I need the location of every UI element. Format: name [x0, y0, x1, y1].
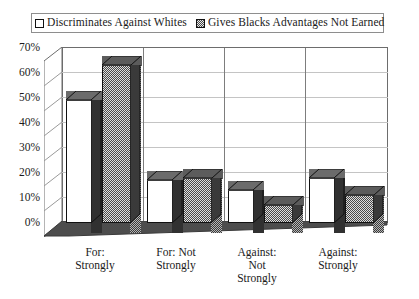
legend-label-discriminates: Discriminates Against Whites: [47, 17, 187, 29]
bar-face: [102, 65, 131, 223]
x-label-against-not-strongly: Against: Not Strongly: [212, 246, 302, 285]
bar-side: [91, 100, 102, 233]
chart-legend: Discriminates Against Whites Gives Black…: [31, 13, 384, 33]
bar-face: [66, 100, 92, 223]
y-tick-40: 40%: [19, 117, 40, 129]
legend-entry-advantages: Gives Blacks Advantages Not Earned: [196, 17, 385, 29]
bar-advantages-for-strongly: [102, 65, 131, 223]
legend-label-advantages: Gives Blacks Advantages Not Earned: [208, 17, 385, 29]
x-label-for-not-strongly: For: Not Strongly: [131, 246, 221, 272]
bar-advantages-against-strongly: [345, 195, 374, 223]
bar-face: [147, 180, 173, 223]
y-tick-10: 10%: [19, 192, 40, 204]
y-tick-20: 20%: [19, 167, 40, 179]
bar-face: [264, 205, 293, 223]
bar-discriminates-against-strongly: [309, 178, 335, 223]
y-tick-50: 50%: [19, 92, 40, 104]
bar-advantages-against-not-strongly: [264, 205, 293, 223]
bar-face: [345, 195, 374, 223]
bar-series-group: [44, 47, 388, 237]
hatched-square-icon: [196, 19, 205, 28]
bar-discriminates-for-not-strongly: [147, 180, 173, 223]
y-tick-0: 0%: [25, 217, 40, 229]
bar-advantages-for-not-strongly: [183, 178, 212, 223]
bar-face: [228, 190, 254, 223]
y-tick-60: 60%: [19, 67, 40, 79]
bar-side: [373, 195, 384, 233]
bar-side: [211, 178, 222, 233]
bar-discriminates-for-strongly: [66, 100, 92, 223]
x-axis-labels: For: Strongly For: Not Strongly Against:…: [44, 246, 388, 298]
bar-side: [253, 190, 264, 233]
bar-side: [334, 178, 345, 233]
x-label-against-strongly: Against: Strongly: [293, 246, 383, 272]
bar-side: [130, 65, 141, 233]
y-tick-70: 70%: [19, 42, 40, 54]
bar-face: [309, 178, 335, 223]
x-label-for-strongly: For: Strongly: [50, 246, 140, 272]
y-axis-labels: 70% 60% 50% 40% 30% 20% 10% 0%: [0, 47, 40, 237]
bar-side: [172, 180, 183, 233]
white-square-icon: [35, 19, 44, 28]
y-tick-30: 30%: [19, 142, 40, 154]
legend-entry-discriminates: Discriminates Against Whites: [35, 17, 187, 29]
bar-side: [292, 205, 303, 233]
bar-face: [183, 178, 212, 223]
bar-chart: Discriminates Against Whites Gives Black…: [0, 0, 419, 299]
bar-discriminates-against-not-strongly: [228, 190, 254, 223]
